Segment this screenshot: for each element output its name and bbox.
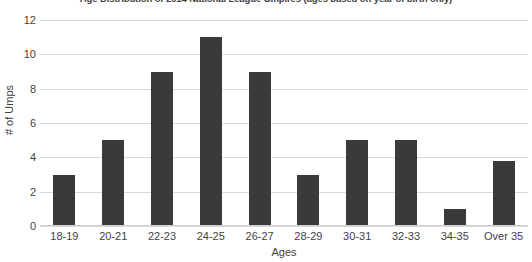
bar-slot xyxy=(333,20,382,226)
y-axis-tick-labels: 024681012 xyxy=(0,20,36,226)
y-axis-tick-label: 2 xyxy=(4,186,36,198)
bar-slot xyxy=(235,20,284,226)
chart-title: Age Distribution of 2014 National League… xyxy=(0,0,532,4)
gridline xyxy=(40,226,528,227)
bar xyxy=(53,175,75,227)
bar-series xyxy=(40,20,528,226)
bar-slot xyxy=(40,20,89,226)
bar xyxy=(297,175,319,227)
x-axis-tick-label: 34-35 xyxy=(430,230,479,242)
y-axis-tick-label: 10 xyxy=(4,48,36,60)
x-axis-tick-labels: 18-1920-2122-2324-2526-2728-2930-3132-33… xyxy=(40,230,528,242)
bar xyxy=(151,72,173,227)
bar xyxy=(200,37,222,226)
x-axis-tick-label: 32-33 xyxy=(382,230,431,242)
bar xyxy=(395,140,417,226)
x-axis-tick-label: 20-21 xyxy=(89,230,138,242)
bar xyxy=(346,140,368,226)
bar xyxy=(249,72,271,227)
bar-chart: Age Distribution of 2014 National League… xyxy=(0,0,532,262)
x-axis-tick-label: 30-31 xyxy=(333,230,382,242)
y-axis-tick-label: 6 xyxy=(4,117,36,129)
bar xyxy=(493,161,515,226)
bar-slot xyxy=(138,20,187,226)
bar xyxy=(102,140,124,226)
x-axis-tick-label: 28-29 xyxy=(284,230,333,242)
bar-slot xyxy=(430,20,479,226)
bar-slot xyxy=(479,20,528,226)
plot-area xyxy=(40,20,528,226)
bar-slot xyxy=(89,20,138,226)
x-axis-tick-label: 26-27 xyxy=(235,230,284,242)
bar-slot xyxy=(382,20,431,226)
x-axis-title: Ages xyxy=(40,246,528,258)
x-axis-tick-label: Over 35 xyxy=(479,230,528,242)
y-axis-tick-label: 4 xyxy=(4,151,36,163)
x-axis-line xyxy=(40,225,528,226)
bar-slot xyxy=(186,20,235,226)
x-axis-tick-label: 18-19 xyxy=(40,230,89,242)
bar xyxy=(444,209,466,226)
bar-slot xyxy=(284,20,333,226)
y-axis-tick-label: 12 xyxy=(4,14,36,26)
x-axis-tick-label: 22-23 xyxy=(138,230,187,242)
x-axis-tick-label: 24-25 xyxy=(186,230,235,242)
y-axis-tick-label: 8 xyxy=(4,83,36,95)
y-axis-tick-label: 0 xyxy=(4,220,36,232)
